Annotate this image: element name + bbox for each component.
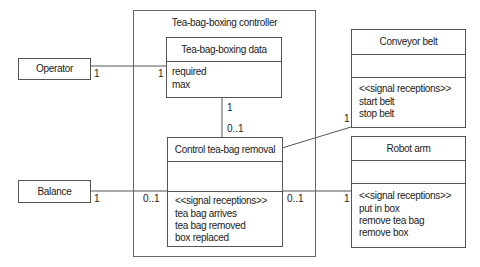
controller-title: Tea-bag-boxing controller [134,17,315,28]
stereotype-label: <<signal receptions>> [359,83,451,95]
compartment-divider [352,77,465,78]
class-name: Tea-bag-boxing data [167,44,281,55]
compartment-divider [352,160,465,161]
signal-stop-belt: stop belt [359,108,394,120]
compartment-divider [168,191,282,192]
compartment-divider [352,54,465,55]
signal-box-replaced: box replaced [175,232,229,244]
actor-name: Balance [19,186,90,197]
multiplicity-balance: 1 [94,194,100,204]
class-name: Robot arm [352,143,465,154]
multiplicity-control-data: 0..1 [227,124,244,134]
class-conveyor-belt[interactable]: Conveyor belt <<signal receptions>> star… [351,29,466,128]
compartment-divider [352,183,465,184]
multiplicity-operator: 1 [94,69,100,79]
compartment-divider [168,161,282,162]
signal-tea-bag-removed: tea bag removed [175,220,246,232]
multiplicity-control-robot: 0..1 [287,194,304,204]
compartment-divider [167,61,281,62]
stereotype-label: <<signal receptions>> [359,190,451,202]
actor-name: Operator [19,63,90,74]
multiplicity-robot: 1 [344,194,350,204]
actor-balance[interactable]: Balance [18,180,91,203]
signal-tea-bag-arrives: tea bag arrives [175,208,237,220]
attribute-max: max [172,79,190,91]
class-name: Control tea-bag removal [168,144,282,155]
signal-remove-box: remove box [359,227,408,239]
multiplicity-data-operator: 1 [158,69,164,79]
class-robot-arm[interactable]: Robot arm <<signal receptions>> put in b… [351,136,466,248]
multiplicity-control-balance: 0..1 [143,194,160,204]
class-tea-bag-boxing-data[interactable]: Tea-bag-boxing data required max [166,37,282,98]
class-name: Conveyor belt [352,36,465,47]
signal-put-in-box: put in box [359,203,399,215]
stereotype-label: <<signal receptions>> [175,195,267,207]
signal-start-belt: start belt [359,96,394,108]
class-control-tea-bag-removal[interactable]: Control tea-bag removal <<signal recepti… [167,137,283,247]
signal-remove-tea-bag: remove tea bag [359,215,424,227]
multiplicity-data-control: 1 [227,103,233,113]
actor-operator[interactable]: Operator [18,58,91,80]
multiplicity-conveyor: 1 [344,114,350,124]
attribute-required: required [172,66,206,78]
